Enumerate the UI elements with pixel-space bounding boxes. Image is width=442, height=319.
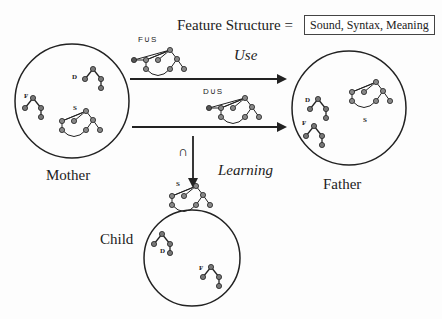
- diagram-canvas: [0, 0, 442, 319]
- top-union-tree-label: F∪S: [138, 36, 157, 44]
- mother-tree-d-label: D: [72, 74, 77, 81]
- father-circle: [292, 51, 406, 165]
- mother-circle: [15, 44, 129, 158]
- feature-structure-label: Feature Structure =: [177, 18, 293, 33]
- father-tree-d-label: D: [305, 97, 310, 104]
- father-tree-f: [303, 123, 324, 147]
- child-tree-f-label: F: [199, 265, 203, 272]
- mother-tree-d: [82, 66, 103, 90]
- mother-label: Mother: [46, 168, 90, 183]
- bottom-union-tree-label: D∪S: [203, 88, 223, 96]
- learned-tree-label: S: [176, 181, 180, 188]
- father-tree-f-label: F: [302, 120, 306, 127]
- child-label: Child: [100, 232, 133, 247]
- bottom-union-tree: [206, 95, 261, 123]
- father-tree-s-label: S: [363, 117, 367, 124]
- mother-tree-f-label: F: [24, 93, 28, 100]
- learning-label: Learning: [218, 163, 273, 178]
- child-circle: [144, 210, 240, 306]
- use-label: Use: [234, 48, 257, 63]
- father-tree-d: [307, 96, 328, 120]
- child-tree-f: [200, 264, 221, 288]
- intersection-symbol: ∩: [178, 145, 188, 159]
- feature-structure-box: Sound, Syntax, Meaning: [304, 15, 435, 35]
- child-tree-d-label: D: [160, 248, 165, 255]
- mother-tree-s: [59, 108, 102, 136]
- top-union-tree: [131, 47, 186, 75]
- father-label: Father: [323, 177, 361, 192]
- father-tree-s: [349, 79, 392, 107]
- mother-tree-s-label: S: [73, 105, 77, 112]
